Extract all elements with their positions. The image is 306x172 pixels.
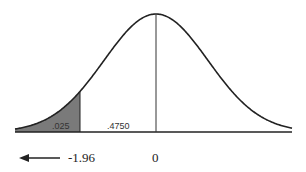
left-arrow-icon (19, 154, 29, 162)
mean-label: 0 (152, 150, 159, 165)
tail-area-label: .025 (52, 121, 70, 131)
critical-value-label: -1.96 (68, 150, 96, 165)
center-area-label: .4750 (107, 121, 130, 131)
bell-curve (15, 14, 292, 129)
normal-distribution-figure: .025 .4750 -1.96 0 (0, 0, 306, 172)
shaded-left-tail (15, 91, 80, 132)
